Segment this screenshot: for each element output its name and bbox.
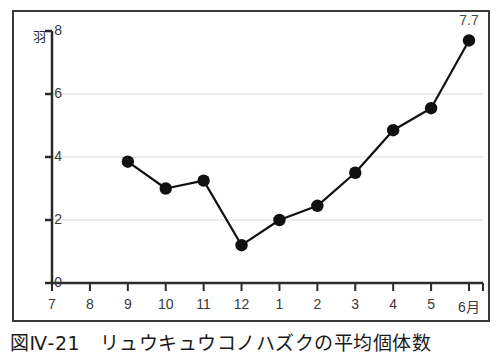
x-tick-label: 4 (389, 296, 397, 312)
x-tick-label: 2 (313, 296, 321, 312)
y-axis-unit-label: 羽 (33, 30, 46, 43)
x-tick-label: 3 (351, 296, 359, 312)
x-tick-label: 11 (196, 296, 211, 312)
chart-frame: 02468 789101112123456月7.7 羽 (12, 10, 490, 322)
x-tick-label: 7 (48, 296, 56, 312)
x-tick-label: 9 (124, 296, 132, 312)
x-tick-label: 10 (158, 296, 174, 312)
x-tick-label: 12 (234, 296, 250, 312)
x-tick-label: 5 (427, 296, 435, 312)
figure-caption: 図Ⅳ-21 リュウキュウコノハズクの平均個体数 (10, 328, 502, 353)
x-tick-label: 1 (276, 296, 284, 312)
data-point-label: 7.7 (459, 12, 478, 28)
x-axis-labels: 789101112123456月7.7 (14, 12, 488, 320)
figure-container: 02468 789101112123456月7.7 羽 図Ⅳ-21 リュウキュウ… (0, 0, 502, 353)
x-tick-label: 6月 (458, 296, 480, 316)
x-tick-label: 8 (86, 296, 94, 312)
